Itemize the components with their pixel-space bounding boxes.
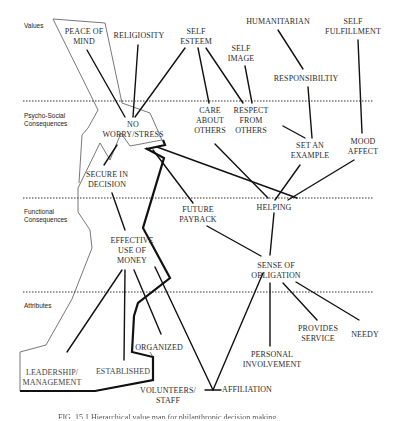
- node-responsibility: RESPONSIBILTIY: [274, 74, 339, 84]
- node-secure-in-decision: SECURE IN DECISION: [86, 170, 128, 190]
- node-helping: HELPING: [257, 203, 292, 213]
- node-leadership-management: LEADERSHIP/ MANAGEMENT: [23, 368, 82, 388]
- node-sense-of-obligation: SENSE OF OBLIGATION: [251, 261, 300, 281]
- node-volunteers-staff: VOLUNTEERS/ STAFF: [140, 386, 196, 406]
- node-effective-use-of-money: EFFECTIVE USE OF MONEY: [110, 236, 153, 266]
- node-self-image: SELF IMAGE: [228, 44, 255, 64]
- node-established: ESTABLISHED: [96, 367, 150, 377]
- node-peace-of-mind: PEACE OF MIND: [65, 27, 103, 47]
- figure-caption: FIG. 15.1 Hierarchical value map for phi…: [58, 413, 398, 419]
- node-mood-affect: MOOD AFFECT: [348, 137, 378, 157]
- level-label-attributes: Attributes: [24, 302, 51, 310]
- node-self-fulfillment: SELF FULFILLMENT: [325, 17, 381, 37]
- node-provides-service: PROVIDES SERVICE: [298, 324, 338, 344]
- node-personal-involvement: PERSONAL INVOLVEMENT: [243, 350, 302, 370]
- node-religiosity: RELIGIOSITY: [114, 31, 165, 41]
- node-set-an-example: SET AN EXAMPLE: [291, 141, 329, 161]
- ladder-outline: [20, 19, 162, 391]
- node-needy: NEEDY: [351, 330, 379, 340]
- node-no-worry-stress: NO WORRY/STRESS: [102, 120, 163, 140]
- node-organized: ORGANIZED: [135, 343, 183, 353]
- node-humanitarian: HUMANITARIAN: [246, 17, 310, 27]
- level-label-values: Values: [24, 22, 43, 30]
- node-affiliation: AFFILIATION: [222, 385, 272, 395]
- level-label-psycho-social: Psycho-Social Consequences: [24, 112, 67, 128]
- node-respect-from-others: RESPECT FROM OTHERS: [234, 106, 269, 136]
- hierarchical-value-map: Values Psycho-Social Consequences Functi…: [0, 0, 400, 421]
- level-label-functional: Functional Consequences: [24, 208, 67, 224]
- node-self-esteem: SELF ESTEEM: [180, 27, 212, 47]
- node-care-about-others: CARE ABOUT OTHERS: [194, 106, 226, 136]
- node-future-payback: FUTURE PAYBACK: [179, 205, 216, 225]
